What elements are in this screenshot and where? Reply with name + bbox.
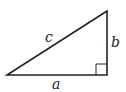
label-hypotenuse-c: c <box>45 29 53 45</box>
label-leg-b: b <box>111 34 120 50</box>
label-leg-a: a <box>52 76 60 92</box>
right-angle-marker <box>96 64 107 75</box>
right-triangle-diagram: c b a <box>0 0 126 92</box>
triangle <box>7 11 107 75</box>
